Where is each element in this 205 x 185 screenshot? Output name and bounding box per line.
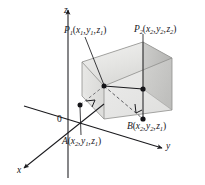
point-label-b-text: B(x2, y2, z1)	[127, 121, 166, 131]
point-label-p1-text: P1(x1, y1, z1)	[64, 25, 106, 35]
origin-label: 0	[57, 115, 62, 125]
point-label-p2-text: P2(x2, y2, z2)	[134, 24, 176, 34]
figure-3d-distance-diagram: P1(x1, y1, z1) P2(x2, y2, z2) A(x2, y1, …	[0, 0, 205, 185]
point-label-b: B(x2, y2, z1)	[127, 122, 166, 132]
axis-label-y: y	[166, 142, 170, 152]
point-label-a: A(x2, y1, z1)	[62, 137, 101, 147]
point-dot-a	[78, 103, 83, 108]
axis-label-x: x	[17, 166, 21, 176]
point-dot-p1	[102, 84, 107, 89]
axis-label-z: z	[64, 6, 68, 16]
leader-line-a	[80, 107, 81, 135]
rect-box-solid	[82, 42, 172, 119]
point-dot-p2	[140, 86, 145, 91]
point-label-a-text: A(x2, y1, z1)	[62, 136, 101, 146]
point-label-p2: P2(x2, y2, z2)	[134, 25, 176, 35]
point-label-p1: P1(x1, y1, z1)	[64, 26, 106, 36]
